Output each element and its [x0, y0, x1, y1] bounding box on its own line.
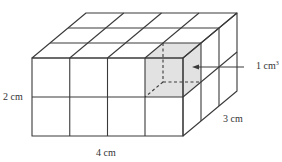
unit-cube-label-exponent: 3 — [276, 60, 279, 66]
height-label: 2 cm — [3, 92, 23, 102]
depth-label: 3 cm — [223, 114, 243, 124]
prism-diagram: 1 cm3 2 cm 4 cm 3 cm — [0, 0, 282, 162]
top-face — [32, 13, 237, 58]
length-label: 4 cm — [96, 148, 116, 158]
prism-drawing — [0, 0, 282, 162]
unit-cube-label: 1 cm3 — [256, 61, 279, 71]
unit-cube-label-base: 1 cm — [256, 60, 276, 71]
